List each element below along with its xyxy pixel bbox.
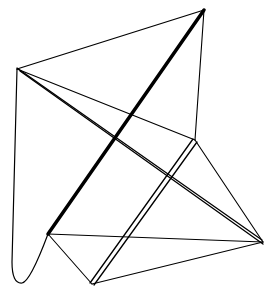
edge-left-top bbox=[17, 10, 204, 69]
edge-bottom-right bbox=[92, 242, 263, 284]
spar-diag-b bbox=[94, 142, 197, 285]
spar-diag-a bbox=[90, 139, 193, 283]
edge-lowerleft-right bbox=[48, 234, 263, 242]
spar-main bbox=[48, 10, 204, 234]
edge-midright-right bbox=[195, 140, 263, 242]
bridle-line bbox=[12, 69, 48, 283]
kite-diagram bbox=[0, 0, 271, 297]
kite-frame-drawing bbox=[0, 0, 271, 297]
edge-left-midright bbox=[17, 69, 195, 140]
edge-lowerleft-bottom bbox=[48, 234, 92, 284]
edge-top-midright bbox=[195, 10, 204, 140]
